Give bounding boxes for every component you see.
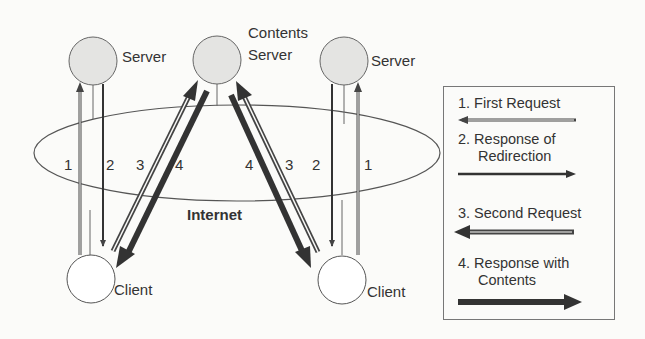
arrow-3-second-request-left — [113, 80, 198, 251]
arrow-4-contents-left — [116, 91, 207, 268]
legend-item-second-request: 3. Second Request — [444, 205, 614, 222]
edge-label-4-left: 4 — [175, 156, 183, 173]
arrow-left-thin-double-icon — [444, 113, 616, 127]
right-arrows: 4 3 2 1 — [231, 81, 372, 268]
arrow-1-first-request-right — [354, 82, 362, 255]
client-icon — [318, 256, 366, 304]
arrow-right-thin-solid-icon — [444, 167, 616, 181]
legend-item-first-request: 1. First Request — [444, 95, 614, 112]
arrow-left-thick-double-icon — [444, 223, 616, 241]
right-client-label: Client — [367, 283, 406, 300]
contents-server-label-line2: Server — [248, 46, 292, 63]
arrow-1-first-request-left — [76, 82, 84, 255]
legend-item-contents: 4. Response with Contents — [444, 255, 614, 289]
internet-cloud: Internet — [34, 105, 440, 223]
edge-label-2-left: 2 — [106, 156, 114, 173]
edge-label-1-left: 1 — [64, 156, 72, 173]
left-arrows: 1 2 3 4 — [64, 80, 207, 268]
edge-label-3-right: 3 — [285, 156, 293, 173]
legend-label: 4. Response with — [444, 255, 569, 271]
legend: 1. First Request 2. Response of Redirect… — [443, 86, 615, 320]
internet-label: Internet — [187, 206, 242, 223]
edge-label-4-right: 4 — [245, 156, 253, 173]
arrow-4-contents-right — [231, 95, 311, 268]
left-client-node: Client — [67, 255, 153, 303]
legend-label: 3. Second Request — [444, 205, 581, 221]
legend-label-line2: Contents — [444, 272, 614, 289]
client-icon — [67, 255, 115, 303]
edge-label-3-left: 3 — [136, 156, 144, 173]
contents-server-node: Contents Server — [193, 24, 308, 84]
legend-label-line2: Redirection — [444, 148, 614, 165]
left-client-label: Client — [114, 281, 153, 298]
server-icon — [69, 37, 117, 85]
edge-label-1-right: 1 — [364, 156, 372, 173]
right-server-label: Server — [371, 52, 415, 69]
edge-label-2-right: 2 — [312, 156, 320, 173]
contents-server-label-line1: Contents — [248, 24, 308, 41]
legend-item-redirection: 2. Response of Redirection — [444, 131, 614, 165]
arrow-right-thick-solid-icon — [444, 293, 616, 311]
server-icon — [193, 36, 241, 84]
right-client-node: Client — [318, 256, 406, 304]
left-server-label: Server — [122, 48, 166, 65]
left-server-node: Server — [69, 37, 166, 85]
legend-label: 1. First Request — [444, 95, 560, 111]
legend-label: 2. Response of — [444, 131, 556, 147]
right-server-node: Server — [320, 37, 415, 85]
server-icon — [320, 37, 368, 85]
